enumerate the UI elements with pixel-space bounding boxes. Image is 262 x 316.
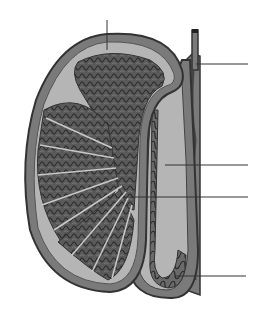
diagram-canvas (0, 0, 262, 316)
testis-diagram (0, 0, 262, 316)
